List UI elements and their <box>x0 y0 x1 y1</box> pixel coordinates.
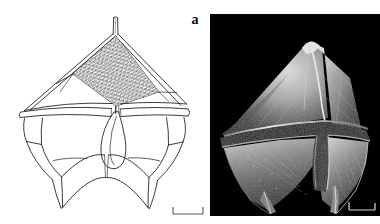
epitheca <box>25 34 187 113</box>
cingulum-girdle <box>19 107 190 117</box>
sem-micrograph-svg <box>210 14 380 216</box>
sem-noise-overlay <box>210 14 380 216</box>
dinoflagellate-sem-panel <box>210 14 380 216</box>
line-drawing-svg <box>0 0 208 224</box>
panel-label-a: a <box>186 11 204 29</box>
theca-outline-group <box>19 17 190 209</box>
scalebar-line-drawing-shape <box>173 207 203 214</box>
apical-horn <box>113 17 118 35</box>
dinoflagellate-line-drawing-panel <box>0 0 208 224</box>
figure-root: a <box>0 0 380 224</box>
scalebar-line-drawing <box>172 206 204 216</box>
scalebar-sem-shape <box>349 202 375 210</box>
scalebar-sem <box>348 200 376 212</box>
apical-plate-stipple <box>70 34 164 110</box>
